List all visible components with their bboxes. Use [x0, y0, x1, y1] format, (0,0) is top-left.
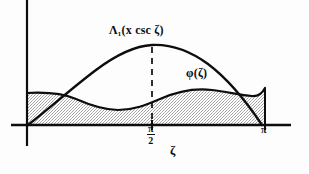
tick-label-pi-half: π 2 [147, 124, 155, 146]
tick-label-pi: π [261, 124, 267, 135]
tick-label-pi-half-denominator: 2 [147, 135, 155, 146]
figure-container: Λ₁(x csc ζ) φ(ζ) π 2 π ζ [0, 0, 309, 174]
x-axis-label: ζ [170, 143, 176, 159]
lambda-curve-label: Λ₁(x csc ζ) [109, 23, 164, 38]
tick-label-pi-half-numerator: π [147, 124, 155, 135]
phi-curve-label: φ(ζ) [186, 66, 207, 81]
